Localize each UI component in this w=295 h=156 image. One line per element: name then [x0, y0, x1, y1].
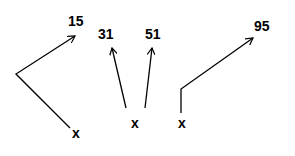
arrow-x-to-31: [112, 48, 126, 108]
source-label-x-1: x: [72, 126, 80, 140]
target-label-31: 31: [98, 27, 114, 41]
arrow-x-to-15: [16, 36, 75, 128]
target-label-51: 51: [145, 27, 161, 41]
source-label-x-3: x: [178, 116, 186, 130]
source-label-x-2: x: [131, 116, 139, 130]
arrow-x-to-95: [181, 38, 253, 113]
arrow-x-to-51: [145, 48, 152, 108]
target-label-95: 95: [254, 19, 270, 33]
target-label-15: 15: [68, 14, 84, 28]
arrow-diagram-canvas: [0, 0, 295, 156]
